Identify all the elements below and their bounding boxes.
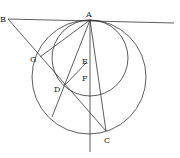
label-c: C [104,136,110,145]
label-f: F [82,74,88,83]
label-a: A [85,10,92,19]
diagram-canvas: A B C D E F G [0,0,180,158]
geometry-diagram: A B C D E F G [0,0,180,158]
label-d: D [54,85,60,94]
secant-line-bc [8,19,106,131]
large-circle [32,20,146,134]
label-g: G [30,55,36,64]
label-e: E [82,57,88,66]
segment-ac [90,20,106,131]
label-b: B [0,15,6,24]
tangent-line-ba [8,19,174,23]
